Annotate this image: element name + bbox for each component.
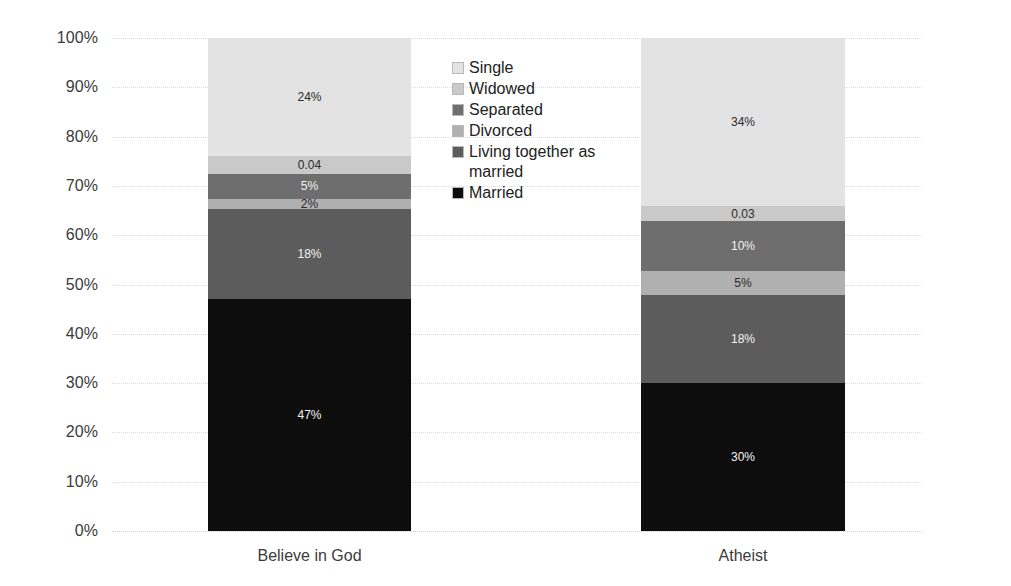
legend-swatch-icon <box>452 83 464 95</box>
segment-value-label: 47% <box>297 409 321 421</box>
legend-item-separated[interactable]: Separated <box>452 100 602 120</box>
segment-value-label: 10% <box>731 240 755 252</box>
y-axis-tick-60: 60% <box>66 226 98 244</box>
y-axis-tick-50: 50% <box>66 276 98 294</box>
bar-segment-widowed[interactable]: 0.04 <box>208 156 411 174</box>
legend-item-label: Single <box>469 58 513 78</box>
segment-value-label: 18% <box>731 333 755 345</box>
legend-swatch-icon <box>452 62 464 74</box>
bar-segment-living-together-as-married[interactable]: 18% <box>208 209 411 300</box>
legend-item-divorced[interactable]: Divorced <box>452 121 602 141</box>
legend-swatch-icon <box>452 146 464 158</box>
segment-value-label: 0.03 <box>731 208 754 220</box>
y-axis-tick-40: 40% <box>66 325 98 343</box>
legend-item-label: Separated <box>469 100 543 120</box>
legend-item-label: Divorced <box>469 121 532 141</box>
bar-segment-single[interactable]: 24% <box>208 38 411 156</box>
legend-item-label: Living together as married <box>469 142 602 182</box>
x-axis-label-believe-in-god: Believe in God <box>257 547 361 565</box>
legend-swatch-icon <box>452 125 464 137</box>
segment-value-label: 18% <box>297 248 321 260</box>
chart-legend: SingleWidowedSeparatedDivorcedLiving tog… <box>452 58 602 204</box>
legend-item-single[interactable]: Single <box>452 58 602 78</box>
bar-believe-in-god[interactable]: 47%18%2%5%0.0424% <box>208 38 411 531</box>
x-axis-label-atheist: Atheist <box>719 547 768 565</box>
y-axis-tick-10: 10% <box>66 473 98 491</box>
bar-segment-widowed[interactable]: 0.03 <box>641 206 845 222</box>
y-axis: 100%90%80%70%60%50%40%30%20%10%0% <box>0 0 108 586</box>
legend-item-label: Married <box>469 183 523 203</box>
gridline-0 <box>112 531 922 532</box>
bar-segment-separated[interactable]: 10% <box>641 221 845 270</box>
legend-swatch-icon <box>452 104 464 116</box>
y-axis-tick-20: 20% <box>66 423 98 441</box>
segment-value-label: 2% <box>301 199 318 209</box>
y-axis-tick-80: 80% <box>66 128 98 146</box>
segment-value-label: 0.04 <box>298 159 321 171</box>
segment-value-label: 34% <box>731 116 755 128</box>
legend-item-living-together-as-married[interactable]: Living together as married <box>452 142 602 182</box>
segment-value-label: 5% <box>301 180 318 192</box>
bar-segment-separated[interactable]: 5% <box>208 174 411 199</box>
stacked-bar-chart: 100%90%80%70%60%50%40%30%20%10%0% 47%18%… <box>0 0 1011 586</box>
bar-segment-married[interactable]: 30% <box>641 383 845 531</box>
segment-value-label: 24% <box>297 91 321 103</box>
legend-item-widowed[interactable]: Widowed <box>452 79 602 99</box>
y-axis-tick-90: 90% <box>66 78 98 96</box>
bar-segment-divorced[interactable]: 5% <box>641 271 845 296</box>
segment-value-label: 5% <box>734 277 751 289</box>
y-axis-tick-0: 0% <box>75 522 98 540</box>
legend-item-married[interactable]: Married <box>452 183 602 203</box>
y-axis-tick-70: 70% <box>66 177 98 195</box>
y-axis-tick-100: 100% <box>57 29 98 47</box>
bar-segment-divorced[interactable]: 2% <box>208 199 411 209</box>
bar-atheist[interactable]: 30%18%5%10%0.0334% <box>641 38 845 531</box>
y-axis-tick-30: 30% <box>66 374 98 392</box>
segment-value-label: 30% <box>731 451 755 463</box>
legend-swatch-icon <box>452 187 464 199</box>
bar-segment-single[interactable]: 34% <box>641 38 845 206</box>
bar-segment-married[interactable]: 47% <box>208 299 411 531</box>
bar-segment-living-together-as-married[interactable]: 18% <box>641 295 845 383</box>
legend-item-label: Widowed <box>469 79 535 99</box>
